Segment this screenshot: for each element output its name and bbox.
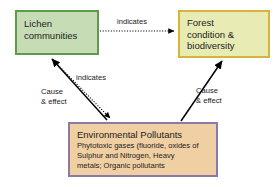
node-pollutants-detail-1: Phytotoxic gases (fluoride, oxides of — [77, 141, 216, 151]
node-forest-line-2: condition & — [187, 29, 268, 41]
diagram-canvas: Lichen communities Forest condition & bi… — [0, 0, 278, 187]
node-lichen-line-2: communities — [24, 30, 97, 42]
edge-label-cause-right-line-2: & effect — [196, 96, 222, 106]
node-lichen-communities[interactable]: Lichen communities — [15, 10, 99, 55]
node-forest-line-3: biodiversity — [187, 40, 268, 52]
edge-label-cause-effect-left: Cause & effect — [41, 87, 67, 106]
node-pollutants-detail-3: metals; Organic pollutants — [77, 161, 216, 171]
node-pollutants-title: Environmental Pollutants — [77, 129, 216, 141]
node-pollutants-detail-2: Sulphur and Nitrogen, Heavy — [77, 151, 216, 161]
edge-label-indicates-left: indicates — [76, 73, 106, 83]
node-environmental-pollutants[interactable]: Environmental Pollutants Phytotoxic gase… — [68, 122, 218, 177]
edge-label-cause-left-line-1: Cause — [41, 87, 67, 97]
node-lichen-line-1: Lichen — [24, 18, 97, 30]
node-forest-condition[interactable]: Forest condition & biodiversity — [178, 10, 270, 58]
edge-label-indicates-top: indicates — [117, 17, 147, 27]
edge-label-cause-left-line-2: & effect — [41, 97, 67, 107]
node-forest-line-1: Forest — [187, 17, 268, 29]
edge-label-cause-right-line-1: Cause — [196, 86, 222, 96]
edge-label-cause-effect-right: Cause & effect — [196, 86, 222, 105]
